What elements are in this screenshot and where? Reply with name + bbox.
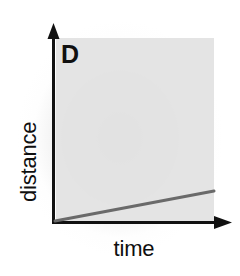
- y-axis-arrow-icon: [48, 23, 60, 39]
- x-axis-label: time: [96, 236, 172, 262]
- y-axis-label: distance: [16, 122, 42, 202]
- figure-panel-d: D distance time: [0, 0, 240, 276]
- x-axis-arrow-icon: [214, 216, 232, 229]
- panel-label: D: [61, 40, 79, 69]
